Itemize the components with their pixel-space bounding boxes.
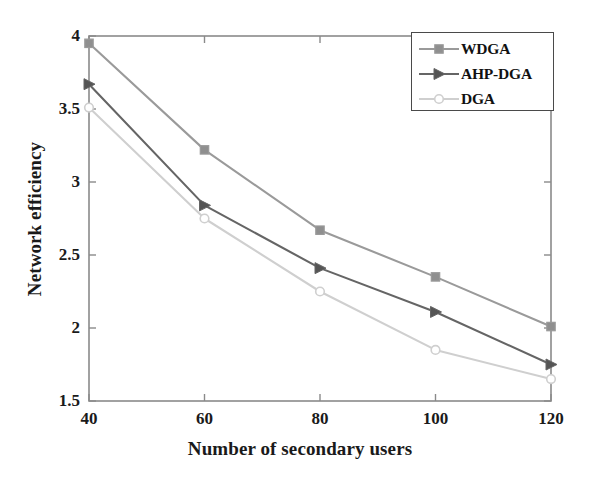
- x-axis-title: Number of secondary users: [0, 438, 600, 460]
- legend-item-dga[interactable]: DGA: [412, 86, 553, 112]
- legend-item-ahp-dga[interactable]: AHP-DGA: [412, 61, 553, 87]
- data-point-wdga-40: [85, 39, 93, 47]
- legend-swatch-ahp-dga: [417, 64, 461, 84]
- series-ahp-dga: [84, 79, 557, 370]
- y-tick-label-2.5: 2.5: [59, 245, 80, 265]
- legend-marker-wdga: [435, 45, 443, 53]
- data-point-dga-120: [547, 375, 556, 384]
- legend-swatch-wdga: [417, 39, 461, 59]
- data-point-dga-100: [431, 346, 440, 355]
- x-tick-label-60: 60: [196, 409, 213, 429]
- y-axis-title: Network efficiency: [24, 109, 46, 329]
- legend-item-wdga[interactable]: WDGA: [412, 36, 553, 62]
- y-tick-label-1.5: 1.5: [59, 391, 80, 411]
- x-tick-label-40: 40: [81, 409, 98, 429]
- x-tick-label-100: 100: [423, 409, 449, 429]
- data-point-wdga-100: [431, 273, 439, 281]
- data-point-ahp-dga-80: [315, 263, 326, 274]
- y-tick-label-4: 4: [72, 26, 81, 46]
- legend-label-dga: DGA: [461, 90, 495, 108]
- y-tick-label-3.5: 3.5: [59, 99, 80, 119]
- data-point-dga-60: [200, 214, 209, 223]
- legend[interactable]: WDGAAHP-DGADGA: [411, 32, 554, 111]
- legend-label-wdga: WDGA: [461, 40, 510, 58]
- x-tick-label-120: 120: [538, 409, 564, 429]
- x-tick-label-80: 80: [312, 409, 329, 429]
- series-line-ahp-dga: [89, 84, 551, 364]
- data-point-wdga-60: [200, 146, 208, 154]
- data-point-ahp-dga-100: [431, 306, 442, 317]
- chart-figure: Network efficiency Number of secondary u…: [0, 0, 600, 479]
- data-point-dga-80: [316, 287, 325, 296]
- data-point-dga-40: [85, 103, 94, 112]
- series-line-dga: [89, 108, 551, 380]
- y-tick-label-3: 3: [72, 172, 81, 192]
- data-point-ahp-dga-60: [200, 200, 211, 211]
- series-dga: [85, 103, 556, 383]
- data-point-wdga-80: [316, 226, 324, 234]
- legend-marker-dga: [435, 95, 444, 104]
- y-tick-label-2: 2: [72, 318, 81, 338]
- legend-label-ahp-dga: AHP-DGA: [461, 65, 532, 83]
- legend-marker-ahp-dga: [434, 69, 445, 80]
- data-point-wdga-120: [547, 322, 555, 330]
- legend-swatch-dga: [417, 89, 461, 109]
